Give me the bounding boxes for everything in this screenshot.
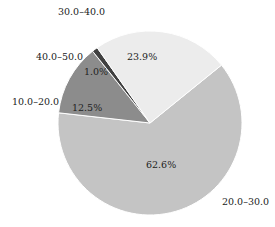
label-30-40: 30.0–40.0: [58, 6, 105, 17]
label-20-30: 20.0–30.0: [222, 196, 269, 207]
label-10-20: 10.0–20.0: [12, 96, 59, 107]
pct-20-30: 62.6%: [146, 159, 176, 170]
pct-30-40: 23.9%: [127, 51, 157, 62]
pct-40-50: 1.0%: [84, 66, 108, 77]
pie-chart: 30.0–40.0 40.0–50.0 10.0–20.0 20.0–30.0 …: [0, 0, 275, 227]
pct-10-20: 12.5%: [72, 102, 102, 113]
label-40-50: 40.0–50.0: [36, 51, 83, 62]
